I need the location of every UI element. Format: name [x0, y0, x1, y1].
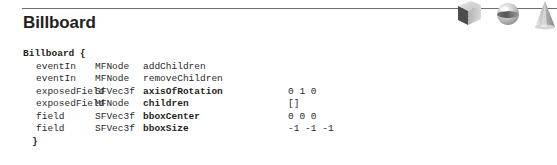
field-access-type: eventIn	[36, 73, 76, 86]
field-name: addChildren	[143, 61, 206, 74]
field-name: bboxCenter	[143, 111, 200, 124]
field-access-type: field	[36, 111, 65, 124]
node-open-brace: Billboard {	[23, 48, 86, 59]
field-data-type: SFVec3f	[95, 111, 135, 124]
field-default-value: []	[288, 98, 299, 111]
field-default-value: -1 -1 -1	[288, 123, 334, 136]
field-data-type: SFVec3f	[95, 123, 135, 136]
field-row: field SFVec3f bboxSize -1 -1 -1	[23, 123, 86, 136]
cube-shape	[458, 1, 481, 25]
field-default-value: 0 0 0	[288, 111, 317, 124]
node-interface-code-block: Billboard { eventIn MFNode addChildren e…	[23, 48, 86, 148]
field-row: eventIn MFNode addChildren	[23, 61, 86, 74]
field-default-value: 0 1 0	[288, 86, 317, 99]
field-row: eventIn MFNode removeChildren	[23, 73, 86, 86]
cone-shape	[535, 1, 555, 30]
field-row: exposedField MFNode children []	[23, 98, 86, 111]
field-row: field SFVec3f bboxCenter 0 0 0	[23, 111, 86, 124]
field-name: removeChildren	[143, 73, 223, 86]
field-access-type: field	[36, 123, 65, 136]
header-divider	[22, 8, 557, 9]
decorative-3d-primitives	[452, 0, 557, 34]
page-title: Billboard	[23, 13, 96, 33]
field-data-type: MFNode	[95, 73, 129, 86]
field-name: bboxSize	[143, 123, 189, 136]
code-line-node-close: }	[23, 136, 86, 149]
field-name: children	[143, 98, 189, 111]
code-line-node-open: Billboard {	[23, 48, 86, 61]
field-row: exposedField SFVec3f axisOfRotation 0 1 …	[23, 86, 86, 99]
field-name: axisOfRotation	[143, 86, 223, 99]
field-access-type: eventIn	[36, 61, 76, 74]
field-data-type: MFNode	[95, 98, 129, 111]
field-data-type: MFNode	[95, 61, 129, 74]
sphere-shape	[497, 3, 519, 25]
field-data-type: SFVec3f	[95, 86, 135, 99]
node-close-brace: }	[23, 136, 38, 147]
